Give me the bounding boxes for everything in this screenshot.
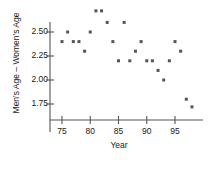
data-point (157, 69, 160, 72)
data-point (72, 40, 75, 43)
data-point (151, 59, 154, 62)
plot-canvas (0, 0, 210, 169)
data-point (61, 40, 64, 43)
data-point (128, 59, 131, 62)
data-point (77, 40, 80, 43)
data-point (83, 50, 86, 53)
axis-ticks (46, 32, 175, 124)
data-markers (61, 9, 194, 108)
axis-lines (50, 22, 203, 132)
scatter-plot-figure: Men's Age – Women's Age 2.502.252.001.75… (0, 0, 210, 169)
data-point (168, 59, 171, 62)
data-point (162, 79, 165, 82)
data-point (190, 105, 193, 108)
data-point (174, 40, 177, 43)
data-point (179, 50, 182, 53)
data-point (140, 40, 143, 43)
data-point (145, 59, 148, 62)
data-point (66, 31, 69, 34)
data-point (123, 21, 126, 24)
data-point (100, 9, 103, 12)
data-point (106, 21, 109, 24)
data-point (111, 40, 114, 43)
data-point (185, 98, 188, 101)
data-point (89, 31, 92, 34)
data-point (134, 50, 137, 53)
data-point (94, 9, 97, 12)
data-point (117, 59, 120, 62)
